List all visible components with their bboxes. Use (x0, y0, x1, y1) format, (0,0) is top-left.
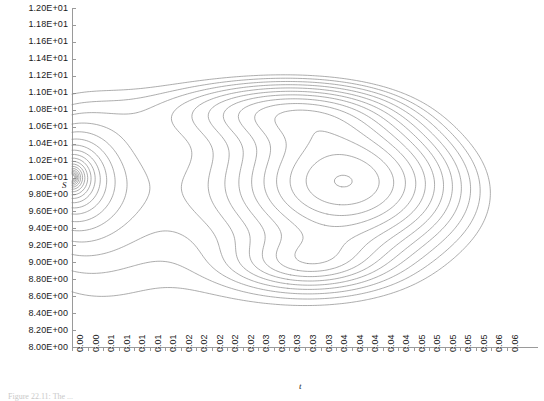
x-minor-tick (344, 347, 345, 349)
contour-line (334, 175, 352, 187)
x-minor-tick (189, 347, 190, 349)
y-tick-label: 9.00E+00 (28, 258, 68, 267)
y-tick-label: 1.14E+01 (28, 54, 68, 63)
x-minor-tick (251, 347, 252, 349)
contour-line (275, 110, 405, 226)
x-tick-mark (274, 347, 275, 351)
y-axis-tick-labels: 8.00E+008.20E+008.40E+008.60E+008.80E+00… (0, 0, 68, 400)
y-tick-label: 1.04E+01 (28, 139, 68, 148)
x-tick-mark (476, 347, 477, 351)
x-tick-mark (243, 347, 244, 351)
x-minor-tick (266, 347, 267, 349)
x-tick-mark (367, 347, 368, 351)
x-minor-tick (422, 347, 423, 349)
x-minor-tick (204, 347, 205, 349)
y-tick-label: 1.18E+01 (28, 20, 68, 29)
x-axis-title: t (299, 381, 302, 391)
y-tick-label: 9.20E+00 (28, 241, 68, 250)
x-tick-mark (507, 347, 508, 351)
contour-line (171, 85, 461, 290)
y-tick-label: 8.80E+00 (28, 275, 68, 284)
x-tick-mark (491, 347, 492, 351)
x-tick-mark (352, 347, 353, 351)
x-tick-mark (305, 347, 306, 351)
y-tick-label: 1.20E+01 (28, 4, 68, 13)
y-tick-label: 8.40E+00 (28, 309, 68, 318)
x-tick-mark (103, 347, 104, 351)
y-tick-label: 1.08E+01 (28, 105, 68, 114)
y-tick-label: 1.10E+01 (28, 88, 68, 97)
x-tick-mark (134, 347, 135, 351)
y-tick-label: 1.16E+01 (28, 37, 68, 46)
x-minor-tick (499, 347, 500, 349)
y-tick-label: 9.80E+00 (28, 190, 68, 199)
x-tick-mark (88, 347, 89, 351)
x-minor-tick (235, 347, 236, 349)
contour-line (72, 78, 480, 299)
x-tick-mark (196, 347, 197, 351)
contour-lines (72, 8, 538, 347)
contour-line (306, 155, 379, 205)
contour-line (72, 81, 471, 293)
contour-line (238, 99, 425, 272)
x-tick-mark (165, 347, 166, 351)
x-minor-tick (437, 347, 438, 349)
contour-line (72, 123, 150, 242)
contour-line (72, 75, 490, 306)
x-minor-tick (95, 347, 96, 349)
x-minor-tick (297, 347, 298, 349)
y-axis-title: S (62, 180, 67, 190)
x-tick-mark (150, 347, 151, 351)
y-tick-label: 1.02E+01 (28, 156, 68, 165)
x-tick-mark (460, 347, 461, 351)
x-tick-mark (445, 347, 446, 351)
x-tick-mark (429, 347, 430, 351)
x-tick-mark (336, 347, 337, 351)
x-minor-tick (142, 347, 143, 349)
y-tick-label: 8.00E+00 (28, 343, 68, 352)
y-tick-label: 8.20E+00 (28, 326, 68, 335)
x-minor-tick (111, 347, 112, 349)
y-tick-label: 1.06E+01 (28, 122, 68, 131)
x-tick-mark (414, 347, 415, 351)
x-minor-tick (390, 347, 391, 349)
contour-line (223, 95, 434, 277)
x-minor-tick (468, 347, 469, 349)
contour-line (208, 91, 443, 281)
x-tick-mark (227, 347, 228, 351)
contour-line (192, 88, 453, 285)
x-minor-tick (328, 347, 329, 349)
y-tick-label: 1.12E+01 (28, 71, 68, 80)
x-minor-tick (173, 347, 174, 349)
x-minor-tick (126, 347, 127, 349)
x-minor-tick (406, 347, 407, 349)
contour-line (72, 174, 75, 180)
x-minor-tick (220, 347, 221, 349)
x-tick-mark (289, 347, 290, 351)
x-tick-mark (383, 347, 384, 351)
y-tick-label: 9.60E+00 (28, 207, 68, 216)
x-tick-mark (398, 347, 399, 351)
x-tick-mark (258, 347, 259, 351)
x-minor-tick (282, 347, 283, 349)
x-minor-tick (80, 347, 81, 349)
x-tick-mark (321, 347, 322, 351)
x-minor-tick (375, 347, 376, 349)
y-tick-label: 8.60E+00 (28, 292, 68, 301)
y-tick-label: 9.40E+00 (28, 224, 68, 233)
x-minor-tick (359, 347, 360, 349)
contour-line (290, 131, 394, 216)
x-tick-mark (72, 347, 73, 351)
x-minor-tick (453, 347, 454, 349)
contour-plot-area (72, 8, 538, 347)
x-tick-mark (119, 347, 120, 351)
x-minor-tick (313, 347, 314, 349)
x-tick-mark (181, 347, 182, 351)
x-minor-tick (484, 347, 485, 349)
figure-caption: Figure 22.11: The ... (8, 392, 428, 401)
x-tick-mark (212, 347, 213, 351)
x-minor-tick (157, 347, 158, 349)
